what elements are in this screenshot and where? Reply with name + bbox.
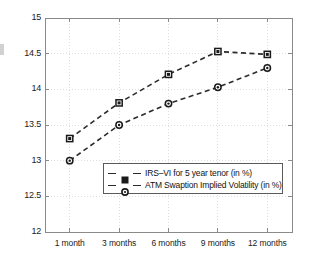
chart-legend: IRS–VI for 5 year tenor (in %) ATM Swapt…	[103, 163, 283, 194]
legend-sample-square	[108, 168, 142, 179]
chart-container: 1212.51313.51414.515 1 month3 months6 mo…	[0, 0, 310, 261]
y-axis-tick-label: 13.5	[8, 119, 41, 129]
y-axis-tick-label: 14.5	[8, 48, 41, 58]
circle-marker-icon	[121, 182, 129, 200]
x-axis-tick-label: 12 months	[237, 238, 297, 248]
legend-dash-right-icon	[133, 173, 141, 175]
series-markers	[67, 48, 271, 163]
legend-dash-right-icon	[133, 185, 141, 187]
y-axis-tick-label: 12	[8, 226, 41, 236]
y-axis-tick-label: 13	[8, 155, 41, 165]
legend-sample-circle	[108, 180, 142, 191]
legend-item-irs-vi: IRS–VI for 5 year tenor (in %)	[108, 167, 277, 179]
legend-dash-left-icon	[108, 173, 116, 175]
legend-label-irs-vi: IRS–VI for 5 year tenor (in %)	[145, 168, 252, 179]
cropped-axis-label-fragment	[0, 44, 4, 55]
y-axis-tick-label: 15	[8, 12, 41, 22]
chart-plot-area	[0, 0, 310, 261]
legend-dash-left-icon	[108, 185, 116, 187]
legend-label-atm-swaption: ATM Swaption Implied Volatility (in %)	[145, 180, 282, 191]
legend-item-atm-swaption: ATM Swaption Implied Volatility (in %)	[108, 179, 277, 191]
y-axis-tick-label: 12.5	[8, 190, 41, 200]
gridlines	[45, 18, 292, 232]
y-axis-tick-label: 14	[8, 83, 41, 93]
